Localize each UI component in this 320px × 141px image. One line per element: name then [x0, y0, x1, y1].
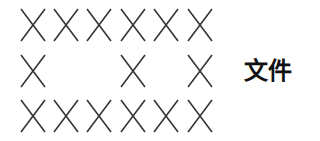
- x-mark-icon: [187, 54, 213, 88]
- x-mark-icon: [120, 8, 146, 42]
- x-mark-icon: [153, 8, 179, 42]
- x-mark-icon: [187, 8, 213, 42]
- x-mark-icon: [20, 8, 46, 42]
- x-mark-icon: [153, 99, 179, 133]
- x-mark-icon: [53, 99, 79, 133]
- x-mark-icon: [86, 8, 112, 42]
- x-mark-icon: [20, 54, 46, 88]
- x-mark-icon: [120, 54, 146, 88]
- x-mark-icon: [86, 99, 112, 133]
- x-mark-icon: [120, 99, 146, 133]
- x-mark-icon: [187, 99, 213, 133]
- x-mark-icon: [20, 99, 46, 133]
- x-mark-icon: [53, 8, 79, 42]
- file-label: 文件: [244, 56, 292, 86]
